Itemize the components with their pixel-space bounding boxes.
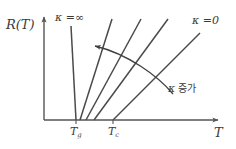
series-line-intermediate-1 [80,19,112,120]
x-tick-label-0: Tg [70,126,82,139]
x-tick-label-1-subscript: c [115,131,119,139]
series-line-intermediate-2 [86,19,141,120]
x-tick-label-1: Tc [108,126,119,139]
series-line-intermediate-3 [94,19,168,120]
kappa-increasing-label: κ 증가 [168,83,196,94]
figure-container: R(T) T Tg Tc κ =∞ κ =0 κ 증가 [0,0,236,149]
kappa-increasing-text: 증가 [178,83,196,94]
kappa-increasing-arrow [95,46,173,94]
y-axis-label: R(T) [6,18,35,31]
series-line-kappa-infinity [71,26,76,120]
x-axis-label: T [214,126,223,139]
series-label-kappa-infinity: κ =∞ [55,12,84,23]
x-tick-label-0-subscript: g [77,131,81,139]
kappa-symbol: κ [168,82,175,95]
series-label-kappa-zero: κ =0 [192,15,219,26]
